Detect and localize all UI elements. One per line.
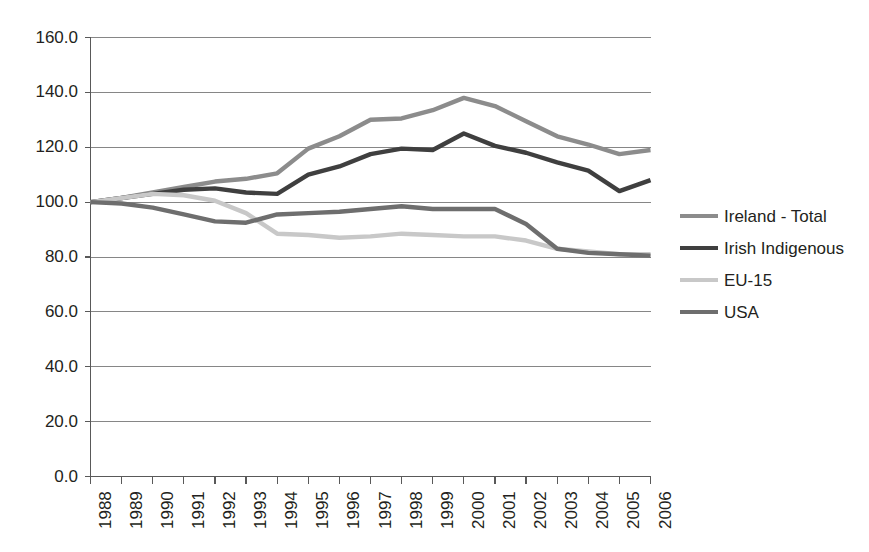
x-tick-label-text: 1988 xyxy=(97,491,114,529)
x-tick-label-text: 2003 xyxy=(563,491,580,529)
legend-color-swatch-icon xyxy=(680,214,718,218)
y-tick-label: 80.0 xyxy=(0,248,78,265)
x-tick-label-text: 2005 xyxy=(625,491,642,529)
y-axis-tick-labels: 0.020.040.060.080.0100.0120.0140.0160.0 xyxy=(0,0,78,552)
y-tick-label: 20.0 xyxy=(0,413,78,430)
legend-item-label: Irish Indigenous xyxy=(724,240,844,257)
y-tick-label: 100.0 xyxy=(0,193,78,210)
legend-item-label: EU-15 xyxy=(724,272,772,289)
x-tick-label-text: 2004 xyxy=(594,491,611,529)
legend-item[interactable]: Ireland - Total xyxy=(680,200,869,232)
x-tick-label-text: 1991 xyxy=(190,491,207,529)
x-tick-label-text: 1999 xyxy=(439,491,456,529)
x-tick-label-text: 1993 xyxy=(252,491,269,529)
legend-color-swatch-icon xyxy=(680,246,718,250)
legend-item[interactable]: Irish Indigenous xyxy=(680,232,869,264)
legend-item-label: Ireland - Total xyxy=(724,208,827,225)
line-chart: 0.020.040.060.080.0100.0120.0140.0160.0 … xyxy=(0,0,869,552)
axis-ticks xyxy=(85,38,651,484)
x-tick-label-text: 2006 xyxy=(657,491,674,529)
series-line-ireland-total xyxy=(91,98,651,202)
legend-color-swatch-icon xyxy=(680,310,718,314)
x-tick-label-text: 2001 xyxy=(501,491,518,529)
y-tick-label: 140.0 xyxy=(0,83,78,100)
x-tick-label-text: 1998 xyxy=(408,491,425,529)
legend-item[interactable]: EU-15 xyxy=(680,264,869,296)
x-tick-label-text: 1995 xyxy=(314,491,331,529)
x-tick-label-text: 1996 xyxy=(345,491,362,529)
legend-color-swatch-icon xyxy=(680,278,718,282)
x-tick-label-text: 2000 xyxy=(470,491,487,529)
y-tick-label: 40.0 xyxy=(0,358,78,375)
x-tick-label-text: 1990 xyxy=(159,491,176,529)
gridlines xyxy=(91,38,651,477)
x-tick-label-text: 1997 xyxy=(377,491,394,529)
chart-legend: Ireland - TotalIrish IndigenousEU-15USA xyxy=(680,200,869,328)
x-tick-label-text: 2002 xyxy=(532,491,549,529)
data-series xyxy=(91,98,651,256)
y-tick-label: 160.0 xyxy=(0,29,78,46)
series-line-irish-indigenous xyxy=(91,134,651,203)
legend-item[interactable]: USA xyxy=(680,296,869,328)
x-axis-tick-labels: 1988198919901991199219931994199519961997… xyxy=(90,481,650,551)
y-tick-label: 120.0 xyxy=(0,138,78,155)
x-tick-label-text: 1994 xyxy=(283,491,300,529)
y-tick-label: 60.0 xyxy=(0,303,78,320)
series-line-eu-15 xyxy=(91,194,651,254)
x-tick-label-text: 1989 xyxy=(128,491,145,529)
legend-item-label: USA xyxy=(724,304,759,321)
x-tick-label-text: 1992 xyxy=(221,491,238,529)
y-tick-label: 0.0 xyxy=(0,468,78,485)
